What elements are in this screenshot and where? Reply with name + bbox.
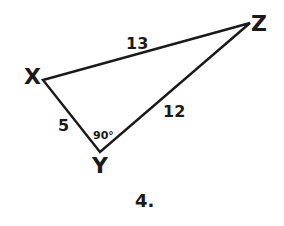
side-label-xy: 5	[58, 118, 69, 134]
problem-number: 4.	[135, 192, 154, 210]
vertex-label-y: Y	[92, 155, 108, 177]
vertex-label-z: Z	[251, 13, 267, 35]
angle-label-y: 90°	[93, 130, 114, 141]
side-label-yz: 12	[163, 104, 185, 120]
vertex-label-x: X	[24, 66, 41, 88]
side-label-xz: 13	[126, 36, 148, 52]
